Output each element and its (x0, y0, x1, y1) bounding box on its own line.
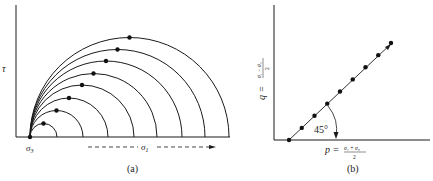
mohr-circle (30, 38, 229, 138)
arrow-head-icon (209, 145, 216, 149)
figure: τ σ3 σ1 (a) 45° q = σ₁ − σ₃ 2 p = σ₁ + σ (0, 0, 433, 181)
sigma3-label: σ3 (26, 143, 33, 154)
angle-arrow-icon (334, 132, 339, 139)
svg-text:2: 2 (353, 154, 356, 160)
q-axis-label: q = σ₁ − σ₃ 2 (256, 58, 270, 100)
panel-b: 45° q = σ₁ − σ₃ 2 p = σ₁ + σ₃ 2 (b) (256, 5, 430, 175)
stress-point (376, 53, 380, 57)
tau-label: τ (2, 63, 6, 74)
svg-text:q =: q = (256, 86, 267, 100)
p-axis-label: p = σ₁ + σ₃ 2 (324, 144, 366, 160)
svg-text:2: 2 (264, 67, 270, 70)
caption-b: (b) (347, 163, 359, 175)
circle-top-point (67, 96, 71, 100)
mohr-circles (30, 38, 229, 138)
sigma3-point (28, 135, 32, 139)
svg-text:σ₁ + σ₃: σ₁ + σ₃ (344, 145, 360, 151)
angle-label: 45° (314, 124, 328, 135)
circle-top-point (127, 35, 131, 39)
circle-top-point (80, 83, 84, 87)
circle-top-point (54, 108, 58, 112)
mohr-circle (30, 49, 205, 137)
stress-point (287, 138, 291, 142)
svg-text:σ₁ − σ₃: σ₁ − σ₃ (256, 62, 262, 78)
svg-text:p =: p = (324, 144, 339, 155)
circle-top-point (104, 59, 108, 63)
stress-points (287, 41, 393, 142)
caption-a: (a) (127, 163, 138, 175)
panel-a: τ σ3 σ1 (a) (2, 5, 230, 175)
stress-point (363, 65, 367, 69)
stress-point (351, 77, 355, 81)
stress-point (300, 126, 304, 130)
sigma1-label: σ1 (141, 142, 148, 153)
stress-point (389, 41, 393, 45)
circle-top-point (91, 71, 95, 75)
circle-top-point (115, 47, 119, 51)
circle-top-point (41, 121, 45, 125)
stress-point (338, 89, 342, 93)
stress-point (312, 114, 316, 118)
stress-point (325, 101, 329, 105)
